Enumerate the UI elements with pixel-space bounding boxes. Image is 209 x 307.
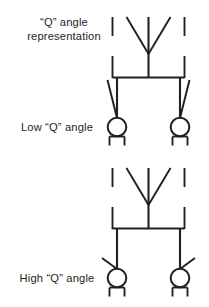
q-angle-figure: “Q” angle representation xyxy=(0,0,209,307)
caption-low-q-angle: Low “Q” angle xyxy=(21,121,93,133)
wheel-left xyxy=(108,118,127,137)
caption-high-q-angle: High “Q” angle xyxy=(20,272,95,284)
wheel-left-high xyxy=(108,269,127,288)
wheel-right-high xyxy=(171,269,190,288)
wheel-right xyxy=(171,118,190,137)
caption-q-angle-representation-line2: representation xyxy=(27,30,101,42)
caption-q-angle-representation-line1: “Q” angle xyxy=(40,16,88,28)
